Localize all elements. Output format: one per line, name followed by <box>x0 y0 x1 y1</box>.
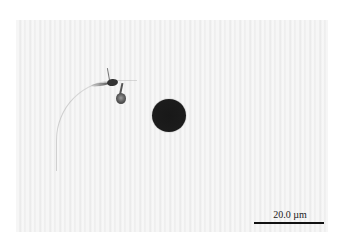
cell-bulb <box>116 93 126 104</box>
micrograph <box>16 20 328 232</box>
flagellum-trail <box>56 80 137 171</box>
scale-bar <box>254 222 324 224</box>
scale-bar-label: 20.0 µm <box>271 209 309 221</box>
dark-spherical-particle <box>152 99 186 132</box>
